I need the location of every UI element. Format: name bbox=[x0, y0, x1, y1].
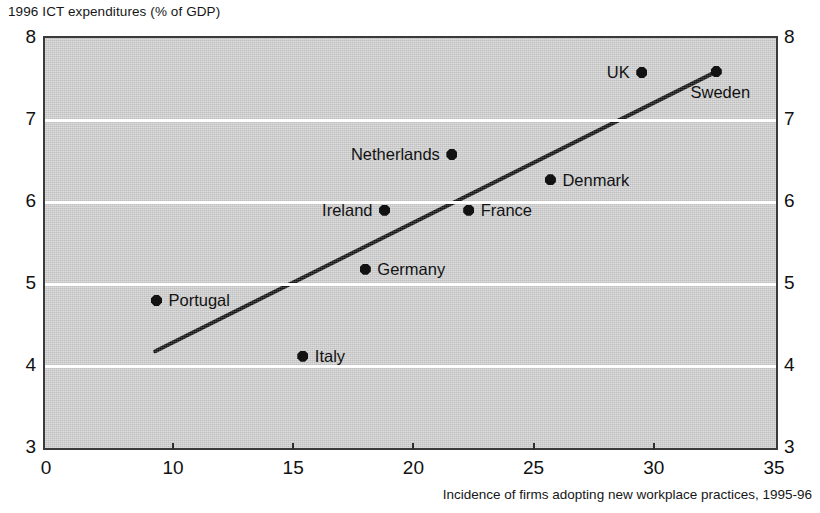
point-label-denmark: Denmark bbox=[562, 172, 629, 189]
scatter-chart: 1996 ICT expenditures (% of GDP) Portuga… bbox=[0, 0, 820, 513]
chart-title: 1996 ICT expenditures (% of GDP) bbox=[8, 4, 220, 19]
x-tick-label-25: 25 bbox=[523, 457, 544, 479]
x-tick-label-10: 10 bbox=[162, 457, 183, 479]
x-tick-mark-20 bbox=[412, 443, 414, 450]
point-label-ireland: Ireland bbox=[322, 202, 372, 219]
data-point-uk[interactable] bbox=[636, 67, 647, 78]
gridline-y-5 bbox=[45, 283, 776, 286]
y-tick-label-right-7: 7 bbox=[784, 108, 818, 130]
point-label-germany: Germany bbox=[377, 261, 445, 278]
x-tick-label-35: 35 bbox=[763, 457, 784, 479]
x-tick-mark-25 bbox=[533, 443, 535, 450]
point-label-netherlands: Netherlands bbox=[351, 146, 440, 163]
x-tick-mark-30 bbox=[653, 443, 655, 450]
y-tick-label-left-6: 6 bbox=[2, 190, 36, 212]
y-tick-label-right-5: 5 bbox=[784, 272, 818, 294]
point-label-uk: UK bbox=[607, 64, 630, 81]
x-tick-label-15: 15 bbox=[283, 457, 304, 479]
gridline-y-6 bbox=[45, 201, 776, 204]
data-point-denmark[interactable] bbox=[545, 174, 556, 185]
y-tick-label-left-3: 3 bbox=[2, 436, 36, 458]
point-label-portugal: Portugal bbox=[168, 292, 229, 309]
trend-line bbox=[155, 72, 716, 352]
gridline-y-7 bbox=[45, 119, 776, 122]
point-label-france: France bbox=[481, 202, 532, 219]
point-label-sweden: Sweden bbox=[690, 84, 750, 101]
trend-line-svg bbox=[45, 38, 776, 448]
x-tick-label-30: 30 bbox=[643, 457, 664, 479]
y-tick-label-left-4: 4 bbox=[2, 354, 36, 376]
gridline-y-4 bbox=[45, 365, 776, 368]
point-label-italy: Italy bbox=[315, 348, 345, 365]
x-tick-mark-10 bbox=[172, 443, 174, 450]
y-tick-label-left-8: 8 bbox=[2, 26, 36, 48]
y-tick-label-left-7: 7 bbox=[2, 108, 36, 130]
x-tick-label-0: 0 bbox=[41, 457, 52, 479]
y-tick-label-right-6: 6 bbox=[784, 190, 818, 212]
x-tick-label-20: 20 bbox=[403, 457, 424, 479]
plot-area: PortugalItalyGermanyIrelandNetherlandsFr… bbox=[43, 36, 778, 450]
y-tick-label-right-8: 8 bbox=[784, 26, 818, 48]
y-tick-label-right-4: 4 bbox=[784, 354, 818, 376]
x-axis-caption: Incidence of firms adopting new workplac… bbox=[443, 487, 812, 502]
data-point-sweden[interactable] bbox=[711, 66, 722, 77]
y-tick-label-left-5: 5 bbox=[2, 272, 36, 294]
x-tick-mark-15 bbox=[292, 443, 294, 450]
y-tick-label-right-3: 3 bbox=[784, 436, 818, 458]
